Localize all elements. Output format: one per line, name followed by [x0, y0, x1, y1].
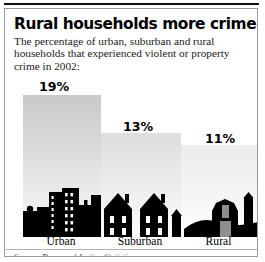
source-note: Source: Bureau of Justice Statistics — [14, 252, 135, 257]
plot-area: 19% 13% 11% — [6, 71, 258, 237]
source-divider — [6, 249, 257, 250]
top-rule — [4, 3, 259, 5]
category-label-urban: Urban — [22, 235, 100, 248]
chart-subtitle: The percentage of urban, suburban and ru… — [14, 35, 254, 72]
value-label-rural: 11% — [205, 131, 235, 146]
value-label-suburban: 13% — [123, 119, 153, 134]
suburban-houses-icon — [104, 193, 182, 237]
category-label-suburban: Suburban — [100, 235, 180, 248]
category-label-rural: Rural — [180, 235, 257, 248]
page-title: Rural households more crime-free — [14, 16, 254, 33]
city-skyline-icon — [23, 188, 101, 237]
chart-frame: Rural households more crime-free The per… — [4, 8, 258, 257]
infographic: Rural households more crime-free The per… — [0, 0, 265, 262]
value-label-urban: 19% — [39, 79, 69, 94]
silhouette-artwork — [6, 175, 258, 237]
